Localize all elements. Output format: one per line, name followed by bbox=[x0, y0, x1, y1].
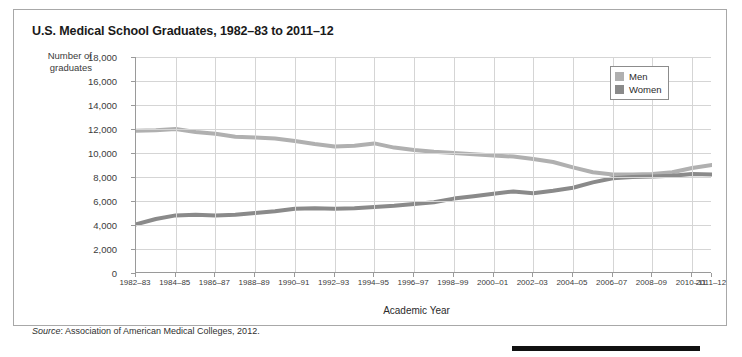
series-line-men bbox=[136, 129, 712, 175]
y-tick-label: 14,000 bbox=[57, 100, 117, 111]
y-tick-label: 0 bbox=[57, 268, 117, 279]
x-tick-mark bbox=[691, 273, 692, 277]
x-tick-mark bbox=[135, 273, 136, 277]
gridline-vertical bbox=[176, 57, 177, 272]
y-tick-mark bbox=[131, 249, 135, 250]
gridline-vertical bbox=[414, 57, 415, 272]
gridline-horizontal bbox=[136, 177, 711, 178]
gridline-vertical bbox=[692, 57, 693, 272]
gridline-horizontal bbox=[136, 129, 711, 130]
legend-item-men[interactable]: Men bbox=[615, 70, 662, 83]
x-tick-mark bbox=[254, 273, 255, 277]
x-tick-label: 1990–91 bbox=[278, 278, 309, 287]
figure-container: U.S. Medical School Graduates, 1982–83 t… bbox=[13, 9, 727, 326]
y-tick-mark bbox=[131, 129, 135, 130]
x-tick-mark bbox=[294, 273, 295, 277]
gridline-vertical bbox=[454, 57, 455, 272]
x-tick-mark bbox=[612, 273, 613, 277]
y-tick-label: 10,000 bbox=[57, 148, 117, 159]
x-tick-mark bbox=[175, 273, 176, 277]
gridline-horizontal bbox=[136, 105, 711, 106]
gridline-vertical bbox=[335, 57, 336, 272]
chart-title: U.S. Medical School Graduates, 1982–83 t… bbox=[32, 24, 334, 38]
gridline-horizontal bbox=[136, 225, 711, 226]
x-tick-mark bbox=[711, 273, 712, 277]
y-tick-mark bbox=[131, 177, 135, 178]
x-tick-label: 1994–95 bbox=[358, 278, 389, 287]
gridline-vertical bbox=[494, 57, 495, 272]
y-tick-mark bbox=[131, 201, 135, 202]
chart-legend: MenWomen bbox=[610, 66, 669, 100]
x-tick-label: 2000–01 bbox=[477, 278, 508, 287]
x-tick-label: 1986–87 bbox=[199, 278, 230, 287]
x-tick-label: 1982–83 bbox=[119, 278, 150, 287]
y-tick-label: 4,000 bbox=[57, 220, 117, 231]
x-tick-label: 1992–93 bbox=[318, 278, 349, 287]
x-tick-label: 2006–07 bbox=[596, 278, 627, 287]
legend-item-women[interactable]: Women bbox=[615, 83, 662, 96]
x-axis-title: Academic Year bbox=[122, 305, 711, 316]
y-tick-label: 6,000 bbox=[57, 196, 117, 207]
y-tick-mark bbox=[131, 225, 135, 226]
x-tick-label: 1984–85 bbox=[159, 278, 190, 287]
x-tick-mark bbox=[532, 273, 533, 277]
legend-swatch-icon bbox=[615, 85, 624, 94]
y-tick-mark bbox=[131, 57, 135, 58]
x-tick-label: 1998–99 bbox=[437, 278, 468, 287]
x-tick-mark bbox=[651, 273, 652, 277]
x-tick-mark bbox=[214, 273, 215, 277]
y-tick-mark bbox=[131, 81, 135, 82]
x-tick-mark bbox=[373, 273, 374, 277]
legend-label: Men bbox=[629, 72, 647, 82]
gridline-vertical bbox=[374, 57, 375, 272]
x-tick-mark bbox=[572, 273, 573, 277]
x-tick-label: 2008–09 bbox=[636, 278, 667, 287]
x-tick-label: 2011–12 bbox=[696, 278, 727, 287]
gridline-horizontal bbox=[136, 57, 711, 58]
y-tick-label: 16,000 bbox=[57, 76, 117, 87]
x-tick-label: 1996–97 bbox=[397, 278, 428, 287]
x-tick-mark bbox=[453, 273, 454, 277]
source-label: Source bbox=[32, 326, 61, 336]
gridline-horizontal bbox=[136, 153, 711, 154]
gridline-vertical bbox=[215, 57, 216, 272]
gridline-vertical bbox=[295, 57, 296, 272]
y-tick-label: 18,000 bbox=[57, 52, 117, 63]
gridline-horizontal bbox=[136, 201, 711, 202]
x-tick-mark bbox=[413, 273, 414, 277]
y-tick-label: 2,000 bbox=[57, 244, 117, 255]
x-tick-mark bbox=[493, 273, 494, 277]
bottom-black-bar bbox=[512, 346, 700, 351]
gridline-vertical bbox=[255, 57, 256, 272]
source-note: Source: Association of American Medical … bbox=[32, 326, 260, 336]
source-text: : Association of American Medical Colleg… bbox=[61, 326, 260, 336]
gridline-vertical bbox=[573, 57, 574, 272]
series-line-women bbox=[136, 174, 712, 224]
legend-swatch-icon bbox=[615, 72, 624, 81]
x-tick-label: 2004–05 bbox=[556, 278, 587, 287]
y-tick-label: 12,000 bbox=[57, 124, 117, 135]
y-tick-label: 8,000 bbox=[57, 172, 117, 183]
x-tick-label: 2002–03 bbox=[517, 278, 548, 287]
y-tick-mark bbox=[131, 153, 135, 154]
gridline-vertical bbox=[533, 57, 534, 272]
x-tick-mark bbox=[334, 273, 335, 277]
gridline-horizontal bbox=[136, 249, 711, 250]
legend-label: Women bbox=[629, 85, 662, 95]
y-tick-mark bbox=[131, 105, 135, 106]
x-tick-label: 1988–89 bbox=[239, 278, 270, 287]
